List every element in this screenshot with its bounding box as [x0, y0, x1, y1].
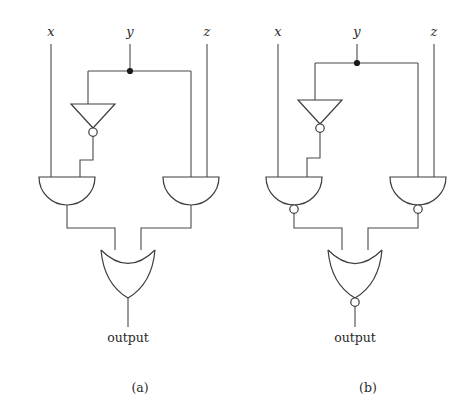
panel-caption-a: (a): [131, 380, 148, 395]
wire-and-left-to-or-a: [67, 205, 115, 250]
wire-noty-to-and-left-a: [80, 136, 93, 177]
input-label-y-b: y: [352, 24, 361, 39]
not-gate-triangle-b: [298, 100, 342, 124]
nand-gate-right-body-b: [390, 177, 446, 205]
not-gate-bubble-b: [316, 124, 324, 132]
logic-circuit-figure: x y z output (a): [0, 0, 469, 420]
input-label-x-b: x: [274, 24, 282, 39]
input-label-x-a: x: [47, 24, 55, 39]
not-gate-triangle-a: [71, 104, 115, 128]
nor-gate-top-arc-b: [328, 250, 382, 264]
and-gate-right-body-a: [163, 177, 219, 205]
or-gate-top-arc-a: [101, 250, 155, 264]
junction-dot-y-b: [354, 60, 360, 66]
panel-b: x y z output (b): [266, 24, 446, 395]
junction-dot-y-a: [127, 68, 133, 74]
wire-and-right-to-or-a: [141, 205, 191, 250]
figure-canvas: x y z output (a): [0, 0, 469, 420]
nor-gate-bubble-b: [351, 298, 359, 306]
panel-a: x y z output (a): [39, 24, 219, 395]
and-gate-left-body-a: [39, 177, 95, 205]
wire-nand-left-to-nor-b: [294, 213, 342, 250]
nand-gate-left-bubble-b: [290, 205, 298, 213]
input-label-z-b: z: [430, 24, 438, 39]
output-label-b: output: [334, 330, 376, 345]
panel-caption-b: (b): [359, 380, 377, 395]
input-label-y-a: y: [125, 24, 134, 39]
input-label-z-a: z: [203, 24, 211, 39]
wire-noty-to-nand-left-b: [307, 132, 320, 177]
not-gate-bubble-a: [89, 128, 97, 136]
wire-nand-right-to-nor-b: [368, 213, 418, 250]
output-label-a: output: [107, 330, 149, 345]
nand-gate-left-body-b: [266, 177, 322, 205]
nand-gate-right-bubble-b: [414, 205, 422, 213]
